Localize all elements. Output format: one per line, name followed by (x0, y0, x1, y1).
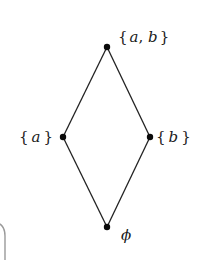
edge-empty-to-b (107, 137, 150, 227)
edge-b-to-ab (107, 47, 150, 137)
label-b: {b} (156, 128, 191, 146)
hasse-diagram: {a, b} {a} {b} ϕ (0, 0, 203, 260)
edge-empty-to-a (63, 137, 107, 227)
frame-corner (0, 222, 5, 260)
node-b (147, 134, 153, 140)
edge-a-to-ab (63, 47, 107, 137)
node-empty (104, 224, 110, 230)
label-ab: {a, b} (118, 28, 169, 46)
edges (63, 47, 150, 227)
label-a: {a} (19, 128, 53, 146)
nodes (60, 44, 153, 230)
node-a (60, 134, 66, 140)
node-ab (104, 44, 110, 50)
label-empty-set: ϕ (121, 226, 131, 244)
